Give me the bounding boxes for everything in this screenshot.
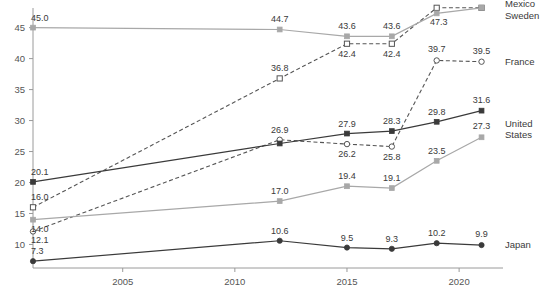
data-point-marker [389,129,394,134]
data-point-label: 7.3 [31,246,44,256]
data-point-marker [479,242,484,247]
y-axis-ticks: 1015202530354045 [14,22,33,250]
data-point-marker [434,158,439,163]
data-point-marker [345,34,350,39]
y-tick-label: 30 [14,115,25,126]
series-japan: 7.310.69.59.310.29.9 [30,226,487,264]
data-point-label: 45.0 [31,13,49,23]
data-point-marker [344,41,349,46]
data-point-marker [389,186,394,191]
data-point-marker [277,27,282,32]
data-point-marker [479,5,484,10]
y-tick-label: 35 [14,84,25,95]
data-point-label: 31.6 [473,95,491,105]
data-point-marker [479,135,484,140]
series-united-states-secondary: 14.017.019.419.123.527.3 [31,121,491,233]
data-point-label: 9.3 [386,234,399,244]
data-point-marker [345,184,350,189]
data-point-marker [277,238,282,243]
data-point-marker [434,11,439,16]
data-point-marker [389,144,394,149]
data-point-label: 48.2 [473,0,491,2]
y-tick-label: 15 [14,208,25,219]
data-point-label: 9.5 [341,233,354,243]
data-point-label: 39.7 [428,44,446,54]
x-tick-label: 2010 [224,276,245,287]
data-point-marker [389,34,394,39]
data-point-label: 20.1 [31,167,49,177]
series-line [33,241,482,261]
legend-label-sweden: Sweden [505,10,539,21]
x-tick-label: 2015 [336,276,357,287]
data-point-label: 39.5 [473,46,491,56]
data-point-label: 29.8 [428,107,446,117]
data-point-marker [344,245,349,250]
data-point-marker [31,179,36,184]
data-point-marker [479,59,484,64]
data-point-label: 44.7 [271,14,289,24]
data-point-label: 23.5 [428,146,446,156]
data-point-marker [277,199,282,204]
data-point-marker [277,76,282,81]
data-point-label: 19.4 [338,171,356,181]
data-point-marker [389,246,394,251]
data-point-label: 10.2 [428,228,446,238]
data-point-label: 26.2 [338,149,356,159]
data-point-label: 47.3 [430,17,448,27]
data-point-label: 26.9 [271,125,289,135]
data-point-label: 42.4 [383,49,401,59]
data-point-marker [30,205,35,210]
data-point-marker [277,141,282,146]
data-point-label: 36.8 [271,63,289,73]
data-point-marker [434,119,439,124]
data-point-marker [31,217,36,222]
y-tick-label: 25 [14,146,25,157]
chart-canvas: 1015202530354045200520102015202016.036.8… [0,0,550,300]
data-point-label: 42.4 [338,49,356,59]
legend-label-states: States [505,129,532,140]
data-point-label: 19.1 [383,173,401,183]
data-point-marker [389,41,394,46]
series-line [33,137,482,219]
data-point-marker [31,25,36,30]
series-line [33,8,482,207]
data-point-marker [345,131,350,136]
data-point-label: 27.3 [473,121,491,131]
data-point-label: 10.6 [271,226,289,236]
series-mexico: 16.036.842.442.448.248.2 [30,0,490,210]
y-tick-label: 20 [14,177,25,188]
series-line [33,111,482,182]
data-point-label: 17.0 [271,186,289,196]
legend-label-mexico: Mexico [505,0,535,9]
series-line [33,60,482,231]
data-point-label: 48.2 [428,0,446,2]
data-point-label: 43.6 [338,21,356,31]
chart-legend: MexicoSwedenFranceUnitedStatesJapan [505,0,539,250]
series-france: 12.126.926.225.839.739.5 [30,44,490,245]
data-point-marker [434,5,439,10]
legend-label-japan: Japan [505,239,531,250]
y-tick-label: 40 [14,53,25,64]
data-point-label: 25.8 [383,152,401,162]
data-point-marker [434,241,439,246]
data-point-label: 28.3 [383,116,401,126]
data-point-marker [479,108,484,113]
data-point-marker [30,259,35,264]
x-tick-label: 2020 [449,276,470,287]
y-tick-label: 45 [14,22,25,33]
series-sweden: 45.044.743.643.647.3 [31,5,484,38]
data-point-label: 27.9 [338,119,356,129]
data-point-label: 43.6 [383,21,401,31]
line-chart: 1015202530354045200520102015202016.036.8… [0,0,550,300]
x-axis-ticks: 2005201020152020 [112,268,470,287]
legend-label-france: France [505,56,535,67]
x-tick-label: 2005 [112,276,133,287]
data-point-marker [434,58,439,63]
data-point-label: 9.9 [475,229,488,239]
data-point-marker [344,141,349,146]
series-line [33,8,482,37]
data-point-label: 16.0 [31,192,49,202]
data-point-label: 14.0 [31,224,49,234]
legend-label-united: United [505,118,532,129]
data-point-label: 12.1 [31,235,49,245]
